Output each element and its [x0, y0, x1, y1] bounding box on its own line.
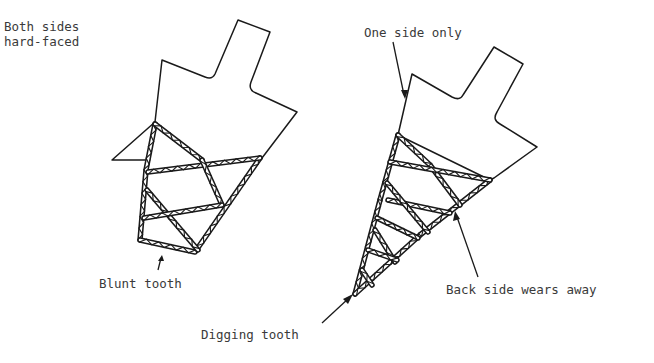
- leader-blunt: [158, 255, 164, 270]
- leader-line-digging: [322, 298, 349, 323]
- label-digging-tooth: Digging tooth: [201, 327, 299, 342]
- left-tooth-outline: [112, 20, 297, 160]
- right-tooth: [353, 47, 537, 296]
- diagram-canvas: Both sides hard-faced One side only Blun…: [0, 0, 654, 363]
- right-tooth-outline: [398, 47, 537, 180]
- diagram-svg: [0, 0, 654, 363]
- leader-back-side: [453, 211, 478, 277]
- label-blunt-tooth: Blunt tooth: [99, 276, 182, 291]
- leader-one-side: [393, 42, 408, 99]
- bead-cross-2: [388, 199, 451, 214]
- leader-digging: [322, 294, 353, 323]
- leader-line-one-side: [393, 42, 404, 95]
- arrowhead-icon: [453, 211, 460, 221]
- leader-line-back-side: [457, 217, 478, 277]
- bead-back-edge: [355, 178, 490, 295]
- label-both-sides: Both sides hard-faced: [4, 19, 79, 49]
- left-tooth: [112, 20, 297, 253]
- label-back-side: Back side wears away: [446, 282, 597, 297]
- arrowhead-icon: [158, 255, 164, 261]
- label-one-side: One side only: [364, 25, 462, 40]
